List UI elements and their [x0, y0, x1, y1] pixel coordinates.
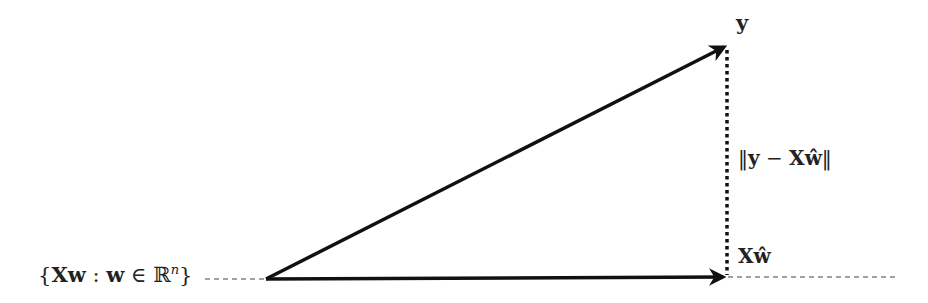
x-text: X [789, 146, 805, 170]
n-exponent: n [171, 262, 179, 277]
colon-text: : [86, 263, 106, 287]
subspace-label: {Xw : w ∈ ℝn} [38, 262, 192, 287]
y-text: y [748, 146, 760, 170]
projection-label: Xŵ [738, 244, 771, 268]
vector-y-arrow [266, 47, 724, 279]
projection-arrow [266, 277, 723, 279]
norm-bars-right: ‖ [822, 146, 832, 170]
norm-bars-left: ‖ [738, 146, 748, 170]
w-hat-text: ŵ [805, 146, 822, 170]
x-text: X [738, 244, 754, 268]
xw-text: Xw [51, 262, 85, 287]
residual-label: ‖y − Xŵ‖ [738, 146, 832, 170]
minus-symbol: − [760, 146, 789, 170]
reals-symbol: ℝ [153, 263, 170, 287]
w-hat-text: ŵ [754, 244, 771, 268]
y-label: y [736, 10, 748, 35]
brace-close: } [179, 263, 192, 287]
w-text: w [106, 262, 124, 287]
brace-open: { [38, 263, 51, 287]
in-symbol: ∈ [124, 263, 153, 287]
